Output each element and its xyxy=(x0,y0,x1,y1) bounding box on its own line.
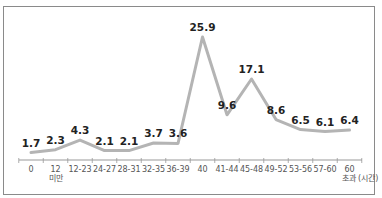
x-tick-label: 45-48 xyxy=(240,165,263,174)
value-label: 2.1 xyxy=(120,135,139,147)
x-tick-label: 60 xyxy=(344,165,354,174)
x-tick-label: 32-35 xyxy=(142,165,165,174)
value-label: 25.9 xyxy=(190,21,216,33)
x-tick-label: 24-27 xyxy=(93,165,116,174)
x-tick-label: 49-52 xyxy=(264,165,287,174)
x-tick-label: 41-44 xyxy=(215,165,238,174)
value-label: 6.5 xyxy=(291,114,310,126)
value-label: 4.3 xyxy=(71,124,90,136)
x-tick-label: 53-56 xyxy=(289,165,312,174)
value-label: 2.1 xyxy=(95,135,114,147)
x-tick-label: 0 xyxy=(28,165,33,174)
line-chart: 1.72.34.32.12.13.73.625.99.617.18.66.56.… xyxy=(0,0,382,198)
value-label: 2.3 xyxy=(46,134,65,146)
x-tick-label: 36-39 xyxy=(166,165,189,174)
x-tick-label-line2: 미만 xyxy=(49,174,64,183)
value-label: 9.6 xyxy=(218,99,237,111)
value-label: 3.7 xyxy=(144,127,163,139)
value-label: 8.6 xyxy=(267,104,286,116)
value-label: 1.7 xyxy=(22,137,41,149)
value-label: 3.6 xyxy=(169,127,188,139)
x-tick-labels: 012미만12-2324-2728-3132-3536-394041-4445-… xyxy=(28,165,378,183)
x-tick-label: 57-60 xyxy=(313,165,336,174)
value-label: 6.4 xyxy=(340,114,359,126)
value-label: 6.1 xyxy=(316,116,335,128)
x-tick-label: 12 xyxy=(50,165,60,174)
x-tick-label: 40 xyxy=(197,165,207,174)
x-tick-label: 28-31 xyxy=(117,165,140,174)
value-label: 17.1 xyxy=(239,63,265,75)
x-tick-label-line2: 초과 (시간) xyxy=(342,173,379,183)
x-tick-label: 12-23 xyxy=(68,165,91,174)
